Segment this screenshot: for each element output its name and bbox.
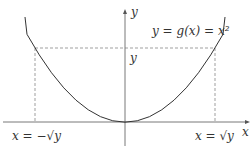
right-root-label: x = √y: [195, 130, 234, 142]
parabola-curve-upper-left: [25, 17, 27, 34]
y-level-label: y: [130, 52, 137, 64]
y-axis-label: y: [131, 6, 138, 18]
x-axis-arrow-icon: [245, 120, 250, 124]
parabola-diagram: [0, 0, 252, 150]
x-axis-label: x: [242, 126, 249, 138]
y-axis-arrow-icon: [123, 9, 127, 14]
left-root-label: x = −√y: [12, 130, 61, 142]
function-label: y = g(x) = x²: [152, 25, 230, 37]
